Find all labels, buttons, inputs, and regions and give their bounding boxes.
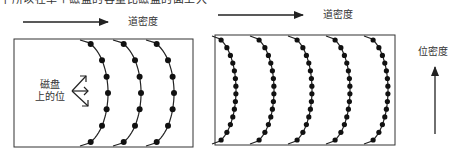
bit-dot — [308, 107, 313, 112]
bit-dot — [300, 45, 305, 50]
bit-dot — [371, 137, 376, 142]
track-arc — [146, 40, 174, 146]
track-arc — [212, 36, 236, 144]
bit-dot — [346, 68, 351, 73]
bit-dot — [104, 74, 110, 80]
bit-dot — [228, 53, 233, 58]
bit-dot — [376, 45, 381, 50]
bit-dot — [384, 68, 389, 73]
bit-dot — [304, 122, 309, 127]
bit-dot — [309, 91, 314, 96]
bit-dot — [295, 37, 300, 42]
bit-dot — [262, 130, 267, 135]
bits-label-line2: 上的位 — [35, 91, 65, 103]
bit-dot — [385, 84, 390, 89]
bit-dot — [270, 68, 275, 73]
bit-dot — [171, 90, 177, 96]
bit-dot — [88, 139, 94, 145]
bit-dot — [170, 106, 176, 112]
bit-dot — [232, 107, 237, 112]
bits-on-disk-label: 磁盘 上的位 — [35, 79, 65, 103]
bit-dot — [219, 137, 224, 142]
bit-dot — [266, 122, 271, 127]
bit-dot — [105, 90, 111, 96]
left-track-density-label: 道密度 — [128, 16, 158, 28]
right-track-arcs — [212, 36, 391, 144]
bit-dot — [170, 74, 176, 80]
bit-dot — [271, 99, 276, 104]
track-arc — [80, 40, 108, 146]
bit-dot — [268, 61, 273, 66]
bit-dot — [121, 41, 127, 47]
bit-dot — [382, 61, 387, 66]
bit-dot — [371, 37, 376, 42]
bit-dot — [384, 107, 389, 112]
right-track-density-label: 道密度 — [323, 9, 353, 21]
bit-dot — [121, 139, 127, 145]
bit-dot — [262, 45, 267, 50]
bit-dot — [304, 53, 309, 58]
track-arc — [113, 40, 141, 146]
bits-label-line1: 磁盘 — [35, 79, 65, 91]
bit-dot — [228, 122, 233, 127]
bit-dot — [347, 84, 352, 89]
disk-density-diagram — [0, 0, 460, 156]
bit-dot — [233, 84, 238, 89]
bit-dot — [333, 137, 338, 142]
bit-dot — [338, 45, 343, 50]
bit-dot — [306, 61, 311, 66]
bit-dot — [266, 53, 271, 58]
bit-dot — [104, 106, 110, 112]
bit-dot — [233, 99, 238, 104]
bit-dot — [382, 114, 387, 119]
bit-dot — [309, 76, 314, 81]
bit-dot — [137, 74, 143, 80]
right-panel — [212, 15, 435, 145]
bit-dot — [232, 68, 237, 73]
bit-dot — [338, 130, 343, 135]
bit-dot — [99, 57, 105, 63]
bit-dot — [154, 139, 160, 145]
bit-dot — [347, 76, 352, 81]
bit-dot — [132, 57, 138, 63]
track-arc — [250, 36, 274, 144]
bits-pointer-arrows-icon — [72, 76, 88, 106]
bit-dot — [233, 91, 238, 96]
bit-dot — [385, 76, 390, 81]
bit-dot — [230, 61, 235, 66]
bit-dot — [224, 130, 229, 135]
track-arc — [288, 36, 312, 144]
bit-dot — [257, 37, 262, 42]
bit-dot — [385, 91, 390, 96]
bit-dot — [233, 76, 238, 81]
bit-dot — [257, 137, 262, 142]
bit-dot — [137, 106, 143, 112]
bit-dot — [344, 114, 349, 119]
track-arc — [326, 36, 350, 144]
bit-dot — [270, 107, 275, 112]
bit-dot — [376, 130, 381, 135]
bit-dot — [271, 84, 276, 89]
left-track-arcs — [80, 40, 177, 146]
bit-dot — [346, 107, 351, 112]
bit-dot — [165, 57, 171, 63]
bit-dot — [268, 114, 273, 119]
bit-dot — [219, 37, 224, 42]
bit-dot — [347, 91, 352, 96]
bit-dot — [138, 90, 144, 96]
bit-dot — [347, 99, 352, 104]
bit-dot — [271, 91, 276, 96]
bit-dot — [99, 123, 105, 129]
bit-dot — [308, 68, 313, 73]
bit-dot — [309, 84, 314, 89]
bit-dot — [306, 114, 311, 119]
bit-dot — [333, 37, 338, 42]
bit-dot — [88, 41, 94, 47]
bit-dot — [132, 123, 138, 129]
bit-dot — [230, 114, 235, 119]
bit-dot — [385, 99, 390, 104]
bit-dot — [380, 122, 385, 127]
bit-dot — [154, 41, 160, 47]
bit-dot — [224, 45, 229, 50]
bit-dot — [300, 130, 305, 135]
